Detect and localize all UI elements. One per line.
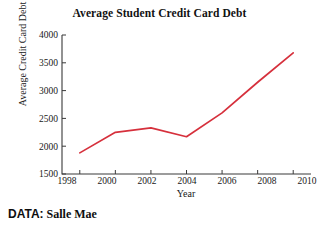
chart-figure: Average Student Credit Card Debt Average… (0, 0, 319, 231)
data-source-note: DATA:Salle Mae (8, 206, 97, 221)
axis-spines (62, 35, 311, 174)
data-source-value: Salle Mae (47, 207, 97, 221)
data-source-prefix: DATA: (8, 207, 44, 221)
plot-area (0, 0, 319, 231)
y-axis-ticks (62, 35, 66, 174)
x-axis-ticks (80, 170, 293, 174)
data-series-line (80, 53, 293, 153)
